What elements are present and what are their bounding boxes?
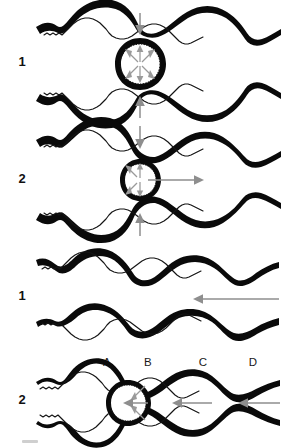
upper-wall xyxy=(36,248,279,286)
panel-2-top: 2 xyxy=(18,117,281,243)
panel-number-label: 2 xyxy=(18,392,25,407)
central-bulge xyxy=(115,38,166,90)
segment-label-d: D xyxy=(249,356,258,368)
segment-labels: A B C D xyxy=(103,356,257,368)
upper-wall-band xyxy=(36,248,279,286)
flow-arrow-left xyxy=(193,294,279,304)
upper-wall xyxy=(36,117,281,168)
lower-wall xyxy=(36,192,281,243)
upper-wall-band xyxy=(36,117,281,168)
diagram-canvas: 1 xyxy=(0,0,285,448)
lower-wall xyxy=(36,82,281,128)
compression-arrow-top xyxy=(135,126,145,149)
upper-wall xyxy=(36,0,281,46)
segment-label-b: B xyxy=(144,356,152,368)
figure-root: 1 xyxy=(0,0,285,448)
panel-1-bottom: 1 xyxy=(18,248,279,341)
flow-arrow-left-mid xyxy=(172,398,212,408)
scan-corner-mark xyxy=(22,440,38,443)
panel-2-bottom: 2 A B C D xyxy=(18,356,280,448)
panel-1-top: 1 xyxy=(18,0,281,128)
lower-wall-band xyxy=(36,192,281,243)
upper-wall xyxy=(36,358,280,402)
lower-wall-band xyxy=(36,82,281,128)
segment-label-c: C xyxy=(199,356,208,368)
lower-wall xyxy=(36,303,279,341)
lower-wall-band xyxy=(36,404,280,448)
panel-number-label: 2 xyxy=(18,171,25,186)
panel-number-label: 1 xyxy=(18,54,25,69)
compression-arrow-bottom xyxy=(135,213,145,236)
panel-number-label: 1 xyxy=(18,288,25,303)
upper-wall-band xyxy=(36,0,281,46)
lower-wall xyxy=(36,404,280,448)
